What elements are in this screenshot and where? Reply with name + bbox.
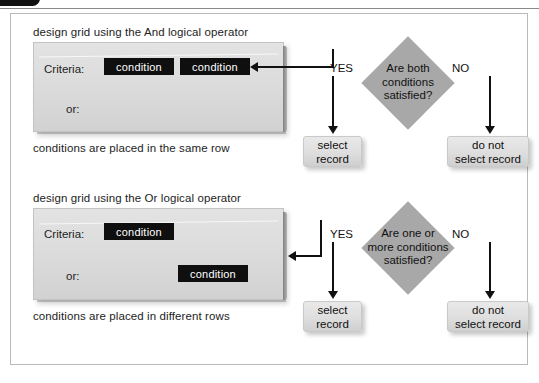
and-section-footer: conditions are placed in the same row (33, 142, 230, 154)
or-criteria-condition-1[interactable]: condition (104, 223, 174, 240)
and-yes-arrowhead (328, 126, 338, 134)
and-no-label: NO (452, 62, 469, 74)
or-no-outcome-line-1: do not (472, 304, 504, 316)
and-yes-outcome-box: select record (303, 136, 362, 167)
or-no-outcome-text: do not select record (455, 303, 521, 331)
or-criteria-row-label: Criteria: (44, 228, 84, 240)
or-yes-outcome-line-2: record (316, 318, 349, 330)
or-yes-outcome-box: select record (303, 301, 362, 332)
or-decision-line-1: Are one or (356, 227, 460, 241)
or-decision-line-2: more conditions (356, 241, 460, 255)
and-criteria-condition-1[interactable]: condition (104, 58, 174, 75)
and-yes-outcome-text: select record (316, 138, 349, 166)
and-no-connector (489, 76, 491, 128)
or-section-footer: conditions are placed in different rows (33, 310, 230, 322)
or-no-label: NO (452, 228, 469, 240)
header-divider-rule (0, 8, 539, 9)
and-no-outcome-box: do not select record (447, 136, 529, 167)
or-feedback-connector-vertical (320, 220, 322, 257)
or-design-grid-panel (33, 208, 284, 300)
or-no-arrowhead (485, 291, 495, 299)
and-decision-line-2: conditions (365, 76, 451, 90)
and-design-grid-panel (33, 42, 284, 132)
and-no-outcome-line-1: do not (472, 139, 504, 151)
and-feedback-arrowhead (250, 62, 258, 72)
or-yes-connector (332, 242, 334, 293)
and-decision-line-3: satisfied? (365, 89, 451, 103)
and-decision-text: Are both conditions satisfied? (365, 62, 451, 103)
and-feedback-connector-horizontal (258, 66, 334, 68)
and-no-outcome-line-2: select record (455, 153, 521, 165)
and-yes-outcome-line-1: select (317, 139, 347, 151)
and-yes-outcome-line-2: record (316, 153, 349, 165)
or-yes-outcome-text: select record (316, 303, 349, 331)
or-or-condition-1[interactable]: condition (178, 265, 248, 282)
and-yes-label: YES (330, 62, 353, 74)
and-decision-line-1: Are both (365, 62, 451, 76)
or-or-row-label: or: (66, 270, 79, 282)
page-number-badge (0, 0, 40, 6)
or-yes-outcome-line-1: select (317, 304, 347, 316)
or-no-outcome-line-2: select record (455, 318, 521, 330)
and-section-title: design grid using the And logical operat… (33, 26, 248, 38)
figure-page: design grid using the And logical operat… (0, 0, 539, 383)
and-criteria-row-label: Criteria: (44, 63, 84, 75)
or-yes-arrowhead (328, 291, 338, 299)
or-decision-line-3: satisfied? (356, 254, 460, 268)
and-criteria-condition-2[interactable]: condition (180, 58, 250, 75)
and-no-arrowhead (485, 126, 495, 134)
or-no-connector (489, 242, 491, 293)
and-or-row-label: or: (66, 103, 79, 115)
or-decision-text: Are one or more conditions satisfied? (356, 227, 460, 268)
and-no-outcome-text: do not select record (455, 138, 521, 166)
and-yes-connector (332, 76, 334, 128)
or-feedback-arrowhead (288, 251, 296, 261)
page-header-strip (0, 0, 539, 9)
or-yes-label: YES (330, 228, 353, 240)
or-feedback-connector-horizontal (296, 255, 322, 257)
or-section-title: design grid using the Or logical operato… (33, 192, 241, 204)
or-no-outcome-box: do not select record (447, 301, 529, 332)
